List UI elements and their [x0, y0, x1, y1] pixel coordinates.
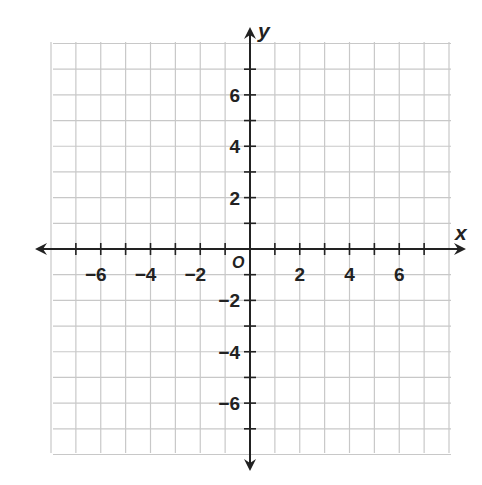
x-tick-label: 6: [394, 264, 405, 285]
coordinate-plane: −6−4−2246642−2−4−6 x y O: [0, 0, 482, 485]
y-tick-label: 2: [229, 188, 240, 209]
axes: [35, 27, 466, 471]
y-tick-label: −2: [218, 290, 240, 311]
x-tick-label: 4: [344, 264, 355, 285]
y-tick-label: 6: [229, 85, 240, 106]
y-tick-label: −6: [218, 393, 240, 414]
y-tick-label: −4: [218, 342, 240, 363]
x-tick-label: −2: [184, 264, 206, 285]
x-tick-label: −4: [135, 264, 157, 285]
x-axis-label: x: [454, 221, 468, 244]
y-tick-label: 4: [229, 136, 240, 157]
x-tick-label: −6: [85, 264, 107, 285]
origin-label: O: [232, 254, 245, 271]
x-tick-label: 2: [294, 264, 305, 285]
y-axis-label: y: [257, 19, 271, 42]
